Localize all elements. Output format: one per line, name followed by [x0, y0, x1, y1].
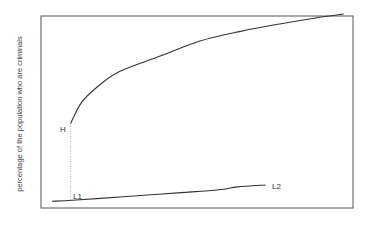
- label-L1: L1: [73, 192, 82, 201]
- series-line-upper-branch: [71, 14, 344, 123]
- label-H: H: [60, 125, 66, 134]
- y-axis-label: percentage of the population who are cri…: [15, 36, 24, 192]
- label-L2: L2: [272, 182, 281, 191]
- series-line-lower-branch: [52, 185, 266, 201]
- chart: percentage of the population who are cri…: [0, 0, 376, 226]
- plot-frame: [41, 16, 353, 208]
